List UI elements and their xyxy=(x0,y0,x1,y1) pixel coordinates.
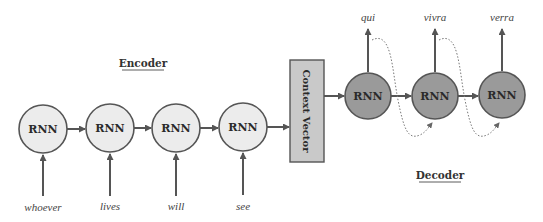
encoder-cell-2: RNN xyxy=(86,104,134,152)
context-vector: Context Vector xyxy=(290,60,324,162)
rnn-label: RNN xyxy=(228,121,257,134)
input-word-4: see xyxy=(236,200,250,212)
encoder-label: Encoder xyxy=(119,57,168,69)
output-word-2: vivra xyxy=(424,11,447,23)
decoder-cell-1: RNN xyxy=(345,73,391,119)
decoder-cell-2: RNN xyxy=(412,73,458,119)
input-word-3: will xyxy=(168,200,185,212)
encoder-input-arrows xyxy=(43,153,243,196)
rnn-label: RNN xyxy=(353,90,382,103)
diagram-canvas: Encoder RNN RNN RNN RNN whoever lives wi… xyxy=(0,0,543,222)
encoder-section: Encoder xyxy=(119,57,168,70)
encoder-cell-3: RNN xyxy=(152,104,200,152)
decoder-cell-3: RNN xyxy=(479,72,525,118)
decoder-section: Decoder xyxy=(416,169,465,182)
context-vector-label: Context Vector xyxy=(301,70,312,154)
decoder-outputs: qui vivra verra xyxy=(361,11,514,23)
output-word-1: qui xyxy=(361,11,375,23)
encoder-cell-1: RNN xyxy=(19,105,67,153)
seq2seq-diagram: Encoder RNN RNN RNN RNN whoever lives wi… xyxy=(0,0,543,222)
decoder-label: Decoder xyxy=(416,169,465,181)
encoder-inputs: whoever lives will see xyxy=(24,200,250,213)
rnn-label: RNN xyxy=(28,123,57,136)
rnn-label: RNN xyxy=(420,90,449,103)
rnn-label: RNN xyxy=(95,122,124,135)
rnn-label: RNN xyxy=(487,89,516,102)
decoder-output-arrows xyxy=(368,29,502,72)
encoder-cell-4: RNN xyxy=(219,103,267,151)
output-word-3: verra xyxy=(490,11,514,23)
input-word-2: lives xyxy=(100,200,120,212)
input-word-1: whoever xyxy=(24,201,62,213)
rnn-label: RNN xyxy=(161,122,190,135)
